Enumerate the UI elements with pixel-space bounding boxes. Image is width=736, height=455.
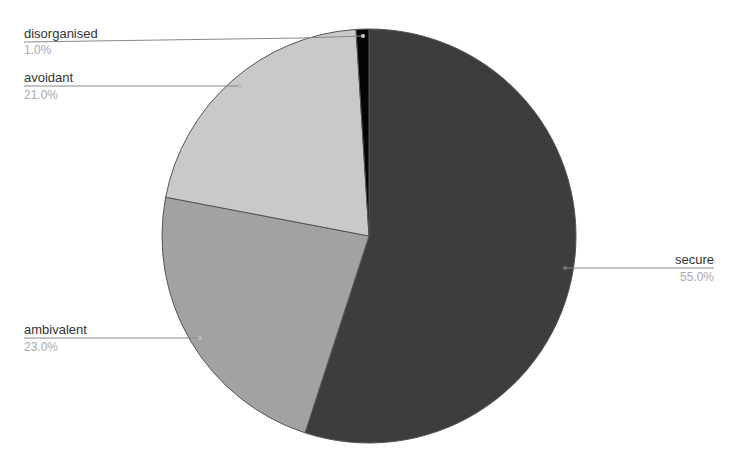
label-avoidant-pct: 21.0% — [24, 88, 58, 102]
leader-dot-avoidant — [238, 84, 242, 88]
label-disorganised-name: disorganised — [24, 26, 98, 41]
label-ambivalent-pct: 23.0% — [24, 340, 58, 354]
leader-dot-disorganised — [361, 34, 365, 38]
label-ambivalent-name: ambivalent — [24, 322, 87, 337]
label-secure-pct: 55.0% — [680, 270, 714, 284]
label-disorganised-pct: 1.0% — [24, 43, 52, 57]
label-secure-name: secure — [675, 252, 714, 267]
pie-slices — [162, 29, 576, 443]
leader-dot-ambivalent — [198, 336, 202, 340]
leader-dot-secure — [563, 266, 567, 270]
pie-chart: disorganised 1.0% avoidant 21.0% ambival… — [0, 0, 736, 455]
label-avoidant-name: avoidant — [24, 70, 74, 85]
